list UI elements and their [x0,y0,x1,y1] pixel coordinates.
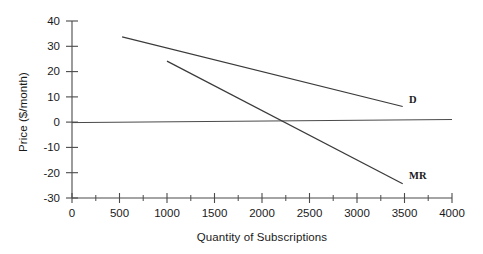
y-tick-label-0: 0 [26,116,60,128]
marginal-revenue-curve-line [167,61,403,184]
y-tick-label-20: 20 [26,65,60,77]
y-tick-label-neg30: -30 [26,192,60,204]
y-tick-label-neg20: -20 [26,167,60,179]
y-axis-title: Price ($/month) [17,42,29,182]
x-tick-label-500: 500 [98,207,142,219]
marginal-revenue-curve-label: MR [409,170,427,181]
y-tick-label-40: 40 [26,15,60,27]
y-tick-label-30: 30 [26,40,60,52]
x-tick-label-1000: 1000 [145,207,189,219]
x-tick-label-2000: 2000 [240,207,284,219]
demand-curve-label: D [409,94,417,105]
x-tick-label-3500: 3500 [383,207,427,219]
chart-container: 40 30 20 10 0 -10 -20 -30 0 500 1000 150… [0,0,483,254]
x-tick-label-4000: 4000 [430,207,474,219]
x-tick-label-3000: 3000 [335,207,379,219]
x-axis-title: Quantity of Subscriptions [72,231,452,243]
x-tick-label-1500: 1500 [193,207,237,219]
zero-reference-line [72,120,452,123]
x-tick-label-0: 0 [50,207,94,219]
demand-curve-line [122,37,403,107]
y-tick-label-neg10: -10 [26,141,60,153]
y-tick-label-10: 10 [26,91,60,103]
x-tick-label-2500: 2500 [288,207,332,219]
